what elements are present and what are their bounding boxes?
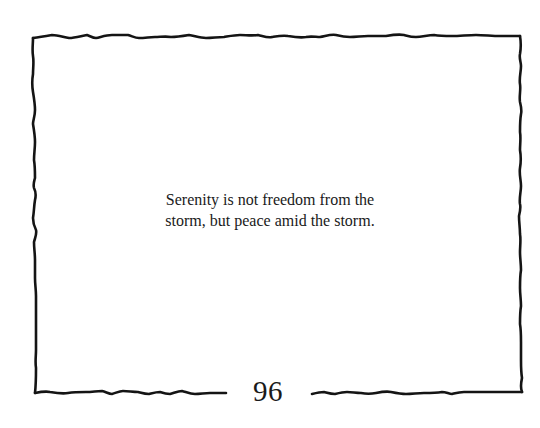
border-bottom-right <box>312 392 522 394</box>
quote-text: Serenity is not freedom from the storm, … <box>100 189 440 231</box>
quote-line-2: storm, but peace amid the storm. <box>100 210 440 231</box>
border-left <box>32 38 36 393</box>
border-top <box>33 35 520 38</box>
quote-line-1: Serenity is not freedom from the <box>100 189 440 210</box>
book-page: Serenity is not freedom from the storm, … <box>0 0 540 428</box>
border-right <box>519 36 522 392</box>
page-number: 96 <box>238 374 298 408</box>
border-bottom-left <box>35 391 226 394</box>
